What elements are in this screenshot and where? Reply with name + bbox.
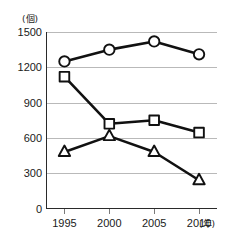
data-point-marker xyxy=(60,72,70,82)
y-axis-tick-label: 1500 xyxy=(18,26,42,38)
line-chart: (個) 030060090012001500 1995200020052010 … xyxy=(0,0,230,238)
data-point-marker xyxy=(104,44,114,54)
data-point-marker xyxy=(194,128,204,138)
x-axis-unit-label: (年) xyxy=(199,218,215,229)
data-point-marker xyxy=(149,36,159,46)
data-point-marker xyxy=(105,119,115,129)
data-point-marker xyxy=(59,56,69,66)
y-axis-unit-label: (個) xyxy=(22,13,38,24)
y-axis-tick-label: 0 xyxy=(36,203,42,215)
y-axis-tick-label: 300 xyxy=(24,167,42,179)
data-point-marker xyxy=(149,115,159,125)
x-axis-tick-label: 1995 xyxy=(52,217,76,229)
x-axis-tick-label: 2005 xyxy=(142,217,166,229)
y-axis-tick-label: 900 xyxy=(24,97,42,109)
chart-canvas: (個) 030060090012001500 1995200020052010 … xyxy=(0,0,230,238)
y-axis-tick-label: 1200 xyxy=(18,61,42,73)
y-axis-tick-label: 600 xyxy=(24,132,42,144)
data-point-marker xyxy=(194,49,204,59)
x-axis-tick-label: 2000 xyxy=(97,217,121,229)
